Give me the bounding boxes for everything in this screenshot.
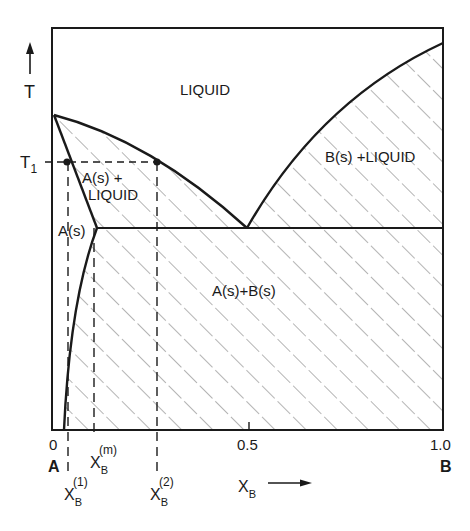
t1-label: T1 xyxy=(20,153,37,176)
x-axis-label: XB xyxy=(238,478,256,500)
label-a-solid: A(s) xyxy=(58,222,86,239)
x-end-label-b: B xyxy=(440,458,452,475)
phase-diagram: T T1 LIQUID A(s) + LIQUID B(s) +LIQUID A… xyxy=(0,0,470,531)
t1-solid-point xyxy=(63,158,70,165)
x-tick-1-0: 1.0 xyxy=(430,436,451,453)
x-tick-0: 0 xyxy=(49,436,57,453)
x-tick-0-5: 0.5 xyxy=(237,436,258,453)
right-arrow-head-icon xyxy=(300,480,312,487)
x1-label: XB(1) xyxy=(64,475,88,508)
label-a-plus-b: A(s)+B(s) xyxy=(212,282,276,299)
label-liquid: LIQUID xyxy=(180,81,230,98)
hatched-regions xyxy=(54,43,443,430)
region-a-plus-b xyxy=(64,228,443,430)
x-end-label-a: A xyxy=(48,458,60,475)
y-axis-label: T xyxy=(24,82,35,102)
up-arrow-head-icon xyxy=(26,42,34,54)
region-b-plus-liquid xyxy=(247,43,443,228)
xm-label: XB(m) xyxy=(90,443,117,476)
t1-liquid-point xyxy=(153,158,160,165)
x2-label: XB(2) xyxy=(150,475,174,508)
label-a-plus-liquid-2: LIQUID xyxy=(88,186,138,203)
label-b-plus-liquid: B(s) +LIQUID xyxy=(325,148,416,165)
label-a-plus-liquid-1: A(s) + xyxy=(82,169,123,186)
